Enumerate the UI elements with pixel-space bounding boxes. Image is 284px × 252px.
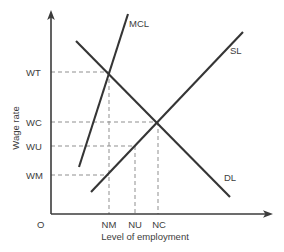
economics-diagram: MCL SL DL WT WC WU WM NM NU NC O Wage ra… bbox=[0, 0, 284, 252]
y-tick-label-wt: WT bbox=[26, 67, 41, 78]
x-tick-label-nc: NC bbox=[152, 219, 166, 230]
curve-label-dl: DL bbox=[224, 172, 236, 183]
x-tick-label-nu: NU bbox=[128, 219, 142, 230]
y-axis-title: Wage rate bbox=[10, 106, 21, 149]
curve-dl bbox=[76, 41, 230, 197]
diagram-canvas: MCL SL DL WT WC WU WM NM NU NC O Wage ra… bbox=[0, 0, 284, 252]
y-tick-label-wu: WU bbox=[26, 141, 42, 152]
curve-mcl bbox=[79, 14, 128, 167]
curve-labels: MCL SL DL bbox=[129, 18, 242, 183]
x-tick-labels: NM NU NC bbox=[102, 219, 166, 230]
curve-label-mcl: MCL bbox=[129, 18, 149, 29]
y-tick-labels: WT WC WU WM bbox=[26, 67, 43, 181]
origin-label: O bbox=[37, 219, 44, 230]
x-axis-title: Level of employment bbox=[101, 231, 189, 242]
curves bbox=[76, 14, 243, 197]
y-tick-label-wm: WM bbox=[26, 170, 43, 181]
y-tick-label-wc: WC bbox=[26, 117, 42, 128]
axes bbox=[47, 10, 273, 218]
curve-label-sl: SL bbox=[230, 45, 242, 56]
guide-lines bbox=[51, 72, 158, 214]
x-tick-label-nm: NM bbox=[102, 219, 117, 230]
